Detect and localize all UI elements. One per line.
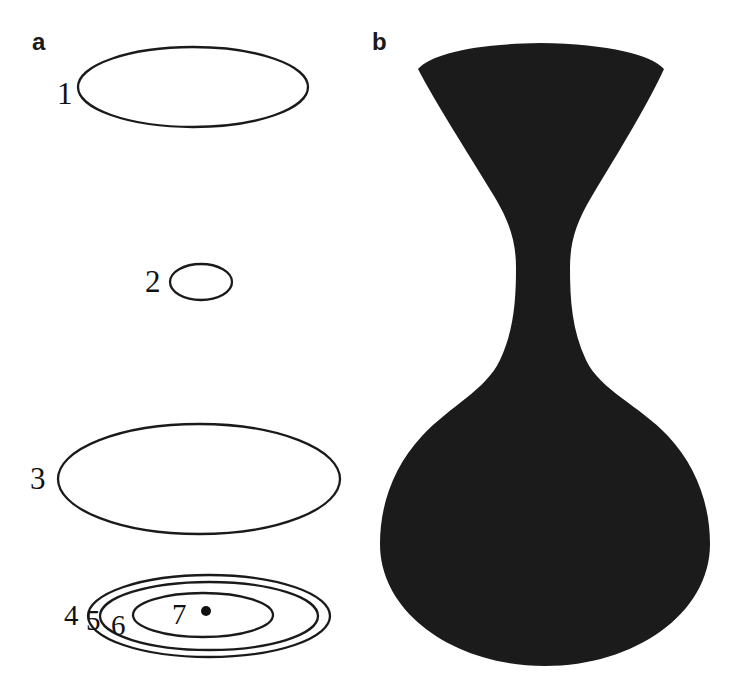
figure-root: a 1234567 b xyxy=(0,0,746,698)
center-dot xyxy=(201,606,211,616)
panel-a: a 1234567 xyxy=(0,0,370,698)
vase-silhouette xyxy=(380,43,710,666)
ellipse-outline-2 xyxy=(170,264,232,300)
panel-b-graphics xyxy=(370,0,746,698)
ellipse-number-label-2: 2 xyxy=(145,266,161,297)
ellipse-outline-1 xyxy=(78,47,308,127)
ellipse-number-label-5: 5 xyxy=(86,606,101,635)
panel-b: b xyxy=(370,0,746,698)
ellipse-outline-3 xyxy=(58,424,340,534)
ellipse-number-label-6: 6 xyxy=(111,611,126,640)
panel-a-graphics xyxy=(0,0,370,698)
ellipse-number-label-7: 7 xyxy=(172,600,187,629)
ellipse-number-label-3: 3 xyxy=(30,463,46,494)
ellipse-number-label-4: 4 xyxy=(64,601,79,630)
ellipse-number-label-1: 1 xyxy=(57,78,73,109)
